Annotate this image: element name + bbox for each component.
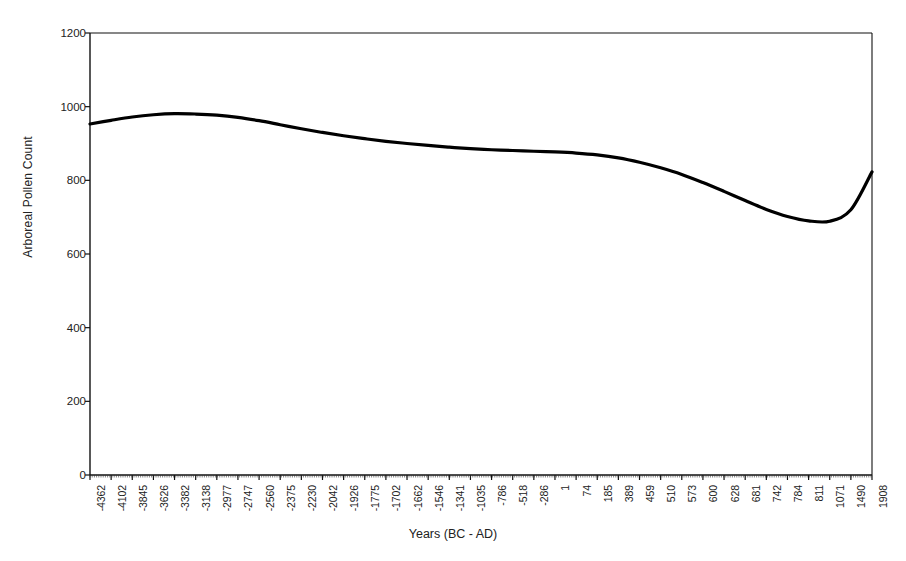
x-axis-tick-label: -2747 (242, 485, 254, 511)
y-axis-tick-labels: 120010008006004002000 (34, 0, 86, 561)
y-axis-title: Arboreal Pollen Count (21, 97, 35, 297)
x-axis-tick-label: -1546 (433, 485, 445, 511)
x-axis-tick-label: 74 (581, 485, 593, 496)
x-axis-tick-label: -2977 (221, 485, 233, 511)
x-axis-tick-label: -3138 (200, 485, 212, 511)
x-axis-tick-label: -3845 (137, 485, 149, 511)
pollen-count-chart: Arboreal Pollen Count 120010008006004002… (0, 0, 906, 561)
x-axis-tick-label: 1071 (834, 485, 846, 508)
y-axis-tick-label: 1200 (40, 27, 86, 39)
x-axis-tick-label: 573 (686, 485, 698, 502)
y-axis-tick-label: 0 (40, 469, 86, 481)
x-axis-tick-label: 1490 (855, 485, 867, 508)
plot-area (0, 0, 906, 561)
x-axis-tick-label: -1926 (348, 485, 360, 511)
x-axis-tick-label: -4362 (95, 485, 107, 511)
x-axis-tick-label: 600 (707, 485, 719, 502)
x-axis-tick-label: 459 (644, 485, 656, 502)
x-axis-title: Years (BC - AD) (0, 527, 906, 541)
x-axis-tick-label: -286 (538, 485, 550, 506)
y-axis-tick-label: 400 (40, 322, 86, 334)
y-axis-tick-label: 200 (40, 395, 86, 407)
x-axis-tick-label: -2375 (285, 485, 297, 511)
x-axis-tick-label: -518 (517, 485, 529, 506)
x-axis-tick-label: -786 (496, 485, 508, 506)
x-axis-tick-label: 1 (559, 485, 571, 491)
x-axis-tick-label: -1341 (454, 485, 466, 511)
x-axis-tick-label: 185 (602, 485, 614, 502)
x-axis-tick-label: -3626 (158, 485, 170, 511)
x-axis-tick-label: 1908 (877, 485, 889, 508)
x-axis-tick-label: -2230 (306, 485, 318, 511)
y-axis-tick-label: 800 (40, 174, 86, 186)
x-axis-tick-label: -1035 (475, 485, 487, 511)
x-axis-tick-label: -2042 (327, 485, 339, 511)
x-axis-tick-label: -1662 (412, 485, 424, 511)
x-axis-tick-label: -3382 (179, 485, 191, 511)
series-line-arboreal-pollen-count (90, 114, 872, 222)
x-axis-tick-label: -1775 (369, 485, 381, 511)
x-axis-tick-label: 784 (792, 485, 804, 502)
x-axis-tick-label: 510 (665, 485, 677, 502)
x-axis-tick-label: -2560 (264, 485, 276, 511)
x-axis-tick-label: 681 (750, 485, 762, 502)
x-axis-tick-label: 811 (813, 485, 825, 501)
y-axis-tick-label: 600 (40, 248, 86, 260)
x-axis-tick-marks (90, 475, 872, 480)
y-axis-tick-label: 1000 (40, 101, 86, 113)
x-axis-tick-label: 628 (729, 485, 741, 502)
x-axis-tick-label: -4102 (116, 485, 128, 511)
x-axis-tick-label: 742 (771, 485, 783, 502)
x-axis-tick-label: -1702 (390, 485, 402, 511)
x-axis-tick-label: 389 (623, 485, 635, 502)
